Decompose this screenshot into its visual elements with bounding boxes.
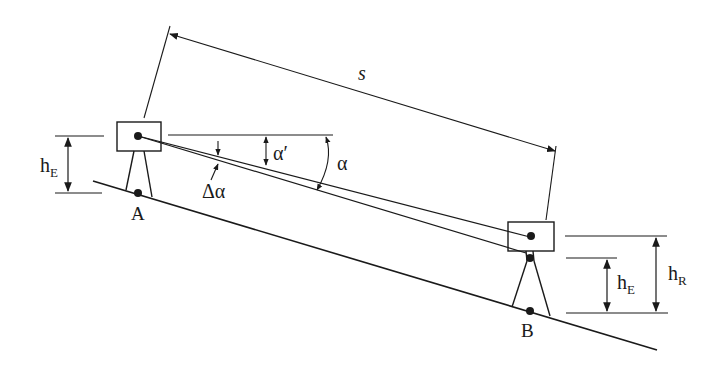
diagram-canvas: s A B hE hE hR α′ α Δα bbox=[0, 0, 718, 371]
label-he-b: hE bbox=[617, 271, 635, 297]
label-alpha-prime: α′ bbox=[273, 142, 288, 164]
sight-line-upper bbox=[138, 136, 530, 237]
tripod-b-left-leg bbox=[512, 261, 527, 307]
s-dimension-arrow bbox=[170, 34, 555, 151]
instrument-a-center bbox=[134, 132, 142, 140]
diagram-svg: s A B hE hE hR α′ α Δα bbox=[0, 0, 718, 371]
sight-line-lower bbox=[138, 136, 526, 253]
tripod-b-right-leg bbox=[534, 261, 550, 316]
s-extension-a bbox=[144, 26, 170, 118]
label-s: s bbox=[358, 62, 366, 84]
label-he-a: hE bbox=[40, 154, 58, 180]
label-b: B bbox=[521, 320, 534, 341]
label-hr: hR bbox=[668, 262, 687, 288]
instrument-b-center bbox=[527, 232, 535, 240]
s-extension-b bbox=[546, 146, 556, 220]
label-alpha: α bbox=[337, 152, 348, 174]
label-a: A bbox=[131, 203, 145, 224]
station-a-point bbox=[134, 189, 142, 197]
ground-line bbox=[93, 181, 657, 350]
tripod-a-left-leg bbox=[126, 151, 134, 190]
station-b-point bbox=[526, 307, 534, 315]
delta-alpha-arrow-up bbox=[211, 164, 218, 180]
tripod-a-right-leg bbox=[144, 151, 152, 197]
tripod-b-head bbox=[526, 254, 534, 262]
label-delta-alpha: Δα bbox=[202, 180, 226, 202]
